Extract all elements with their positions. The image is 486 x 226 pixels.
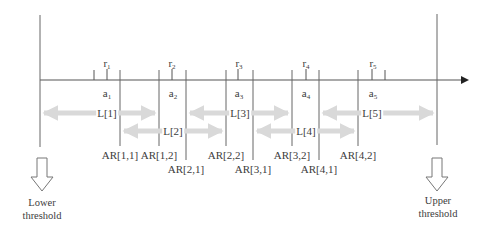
point-label-a1: a1	[103, 88, 111, 101]
boundary-label-ar21: AR[2,1]	[168, 164, 204, 175]
lower-threshold-arrow-icon	[31, 158, 53, 191]
point-label-r2: r2	[168, 58, 175, 71]
point-label-r3: r3	[235, 58, 242, 71]
main-axis	[40, 76, 469, 84]
point-label-a4: a4	[302, 88, 310, 101]
lower-threshold-label: Lower threshold	[22, 196, 61, 222]
point-label-a2: a2	[169, 88, 177, 101]
boundary-label-ar12: AR[1,2]	[141, 150, 177, 161]
range-label-l3: L[3]	[229, 108, 251, 119]
point-label-a3: a3	[235, 88, 243, 101]
range-label-l1: L[1]	[96, 108, 118, 119]
upper-threshold-label: Upper threshold	[418, 194, 457, 220]
range-label-l2: L[2]	[162, 126, 184, 137]
boundary-label-ar42: AR[4,2]	[340, 150, 376, 161]
boundary-label-ar32: AR[3,2]	[274, 150, 310, 161]
point-label-a5: a5	[369, 88, 377, 101]
range-label-l5: L[5]	[361, 108, 383, 119]
range-label-l4: L[4]	[295, 126, 317, 137]
axis-arrow-icon	[461, 76, 469, 84]
boundary-label-ar41: AR[4,1]	[301, 164, 337, 175]
point-label-r1: r1	[103, 58, 110, 71]
boundary-label-ar11: AR[1,1]	[102, 150, 138, 161]
point-label-r4: r4	[302, 58, 309, 71]
boundary-label-ar22: AR[2,2]	[208, 150, 244, 161]
boundary-label-ar31: AR[3,1]	[235, 164, 271, 175]
upper-threshold-arrow-icon	[426, 158, 448, 191]
point-label-r5: r5	[369, 58, 376, 71]
